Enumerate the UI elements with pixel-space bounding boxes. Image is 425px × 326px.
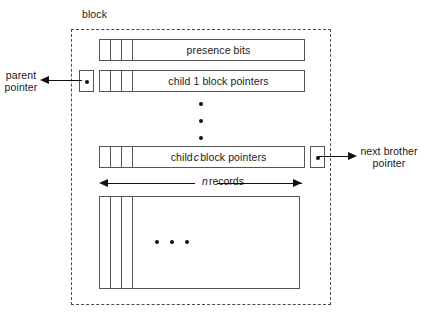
next-brother-label-line1: next brother bbox=[356, 145, 422, 157]
n-records-arrow-line-left bbox=[107, 183, 195, 184]
n-records-dimension: nrecords bbox=[99, 175, 302, 191]
child-c-label-suffix: block pointers bbox=[200, 151, 266, 163]
parent-pointer-label: parent pointer bbox=[2, 69, 40, 93]
parent-pointer-label-line2: pointer bbox=[2, 81, 40, 93]
child-1-block-pointers-row: child 1 block pointers bbox=[99, 70, 305, 92]
child-c-block-pointers-label: child c block pointers bbox=[133, 147, 304, 167]
parent-pointer-node-dot bbox=[85, 80, 89, 84]
presence-bits-row: presence bits bbox=[99, 39, 305, 61]
child-1-cell-1 bbox=[100, 71, 111, 91]
horizontal-ellipsis-dot bbox=[155, 240, 159, 244]
parent-pointer-arrowhead-icon bbox=[40, 76, 49, 84]
records-column-3 bbox=[122, 197, 133, 288]
parent-pointer-box bbox=[79, 70, 94, 92]
n-records-arrowhead-right-icon bbox=[293, 179, 302, 187]
child-c-label-variable: c bbox=[193, 151, 200, 163]
records-area bbox=[133, 197, 299, 288]
block-structure-diagram: block presence bits parent pointer child… bbox=[0, 0, 425, 326]
n-records-variable: n bbox=[202, 175, 209, 187]
child-1-cell-2 bbox=[111, 71, 122, 91]
vertical-ellipsis-dot bbox=[199, 102, 203, 106]
vertical-ellipsis-dot bbox=[199, 136, 203, 140]
next-brother-pointer-label: next brother pointer bbox=[356, 145, 422, 169]
presence-bits-label: presence bits bbox=[133, 40, 304, 60]
parent-pointer-arrow-line bbox=[48, 80, 82, 81]
next-brother-pointer-box bbox=[310, 146, 325, 168]
child-c-cell-2 bbox=[111, 147, 122, 167]
presence-bits-cell-3 bbox=[122, 40, 133, 60]
next-brother-arrow-line bbox=[317, 156, 350, 157]
child-1-cell-3 bbox=[122, 71, 133, 91]
n-records-label: nrecords bbox=[195, 175, 251, 187]
block-caption: block bbox=[82, 8, 107, 20]
records-box bbox=[99, 196, 300, 289]
child-c-block-pointers-row: child c block pointers bbox=[99, 146, 305, 168]
records-column-1 bbox=[100, 197, 111, 288]
horizontal-ellipsis bbox=[155, 240, 189, 244]
n-records-arrow-line-right bbox=[217, 183, 302, 184]
vertical-ellipsis-dot bbox=[199, 119, 203, 123]
parent-pointer-label-line1: parent bbox=[2, 69, 40, 81]
n-records-text: records bbox=[209, 175, 244, 187]
child-c-cell-3 bbox=[122, 147, 133, 167]
records-column-2 bbox=[111, 197, 122, 288]
horizontal-ellipsis-dot bbox=[185, 240, 189, 244]
next-brother-label-line2: pointer bbox=[356, 157, 422, 169]
child-1-block-pointers-label: child 1 block pointers bbox=[133, 71, 304, 91]
presence-bits-cell-2 bbox=[111, 40, 122, 60]
child-c-cell-1 bbox=[100, 147, 111, 167]
horizontal-ellipsis-dot bbox=[170, 240, 174, 244]
child-c-label-prefix: child bbox=[171, 151, 193, 163]
presence-bits-cell-1 bbox=[100, 40, 111, 60]
